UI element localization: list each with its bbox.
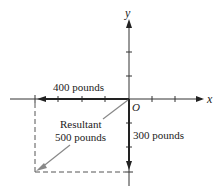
y-axis-arrow-icon xyxy=(126,19,132,28)
vector-400-pounds xyxy=(37,96,129,102)
arrowhead-down-icon xyxy=(126,161,132,170)
x-axis-label: x xyxy=(207,93,212,105)
vector-diagram: y x O 400 pounds 300 pounds Resultant 50… xyxy=(0,0,215,192)
origin-label: O xyxy=(132,102,140,113)
y-axis-label: y xyxy=(125,7,130,19)
label-300-pounds: 300 pounds xyxy=(133,130,184,141)
label-resultant: Resultant xyxy=(60,119,102,130)
label-400-pounds: 400 pounds xyxy=(53,82,104,93)
x-axis-arrow-icon xyxy=(196,96,204,102)
arrowhead-left-icon xyxy=(37,96,46,102)
diagram-canvas xyxy=(0,0,215,192)
label-resultant-magnitude: 500 pounds xyxy=(55,132,106,143)
